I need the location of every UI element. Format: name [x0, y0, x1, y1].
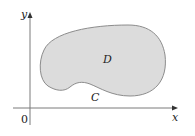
- y-axis-label: y: [21, 9, 27, 20]
- region-label-d: D: [103, 54, 112, 65]
- y-axis-arrow-icon: [28, 12, 33, 18]
- origin-label: 0: [21, 114, 28, 125]
- diagram-canvas: [0, 0, 195, 136]
- curve-label-c: C: [91, 92, 99, 103]
- x-axis: [13, 106, 178, 111]
- x-axis-arrow-icon: [172, 106, 178, 111]
- x-axis-label: x: [172, 112, 178, 123]
